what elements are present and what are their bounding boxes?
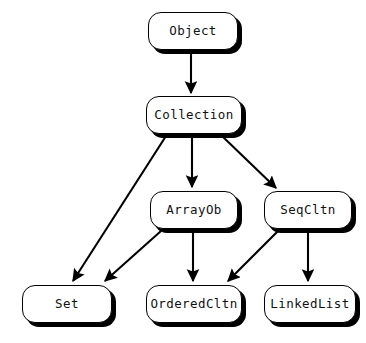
class-hierarchy-diagram: ObjectCollectionArrayObSeqCltnSetOrdered… xyxy=(0,0,366,343)
node-set[interactable]: Set xyxy=(22,285,112,323)
node-label-seqcltn: SeqCltn xyxy=(280,204,335,217)
node-label-arrayob: ArrayOb xyxy=(166,204,221,217)
node-object[interactable]: Object xyxy=(148,12,238,50)
node-seqcltn[interactable]: SeqCltn xyxy=(264,191,352,229)
node-collection[interactable]: Collection xyxy=(146,96,242,134)
node-linkedlist[interactable]: LinkedList xyxy=(264,285,356,323)
node-arrayob[interactable]: ArrayOb xyxy=(150,191,238,229)
node-label-linkedlist: LinkedList xyxy=(270,298,349,311)
edge-seqcltn-to-orderedcltn xyxy=(228,231,278,281)
node-orderedcltn[interactable]: OrderedCltn xyxy=(146,285,242,323)
edge-arrayob-to-set xyxy=(105,231,161,281)
node-label-collection: Collection xyxy=(154,109,233,122)
node-label-orderedcltn: OrderedCltn xyxy=(150,298,237,311)
edge-collection-to-seqcltn xyxy=(222,136,276,188)
node-label-object: Object xyxy=(169,25,217,38)
node-label-set: Set xyxy=(55,298,79,311)
